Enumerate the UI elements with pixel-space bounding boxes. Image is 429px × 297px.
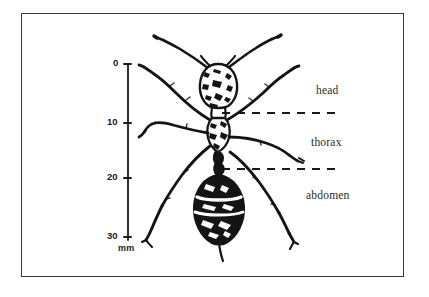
- scale-tick-label-30: 30: [107, 230, 118, 241]
- ant-body: [139, 35, 304, 261]
- antennae-tips: [154, 35, 281, 38]
- head: [200, 64, 237, 108]
- ant-illustration: [0, 0, 429, 297]
- leg-middle-left: [139, 123, 208, 137]
- petiole: [214, 152, 224, 175]
- figure-container: 0 10 20 30 mm head thorax abdomen: [0, 0, 429, 297]
- leg-middle-right: [229, 137, 298, 161]
- abdomen: [194, 175, 244, 261]
- scale-tick-label-20: 20: [107, 171, 118, 182]
- scale-tick-label-10: 10: [107, 116, 118, 127]
- scale-tick-label-0: 0: [113, 57, 118, 68]
- leg-hind-left-tarsus: [142, 240, 152, 247]
- label-head: head: [316, 84, 339, 96]
- scale-axis: [124, 64, 131, 240]
- leg-front-right: [227, 66, 299, 120]
- label-thorax: thorax: [311, 136, 342, 148]
- scale-unit-label: mm: [118, 243, 135, 253]
- leg-middle-right-tarsus: [298, 158, 304, 163]
- label-abdomen: abdomen: [306, 189, 350, 201]
- leg-hind-right-tarsus: [290, 242, 298, 249]
